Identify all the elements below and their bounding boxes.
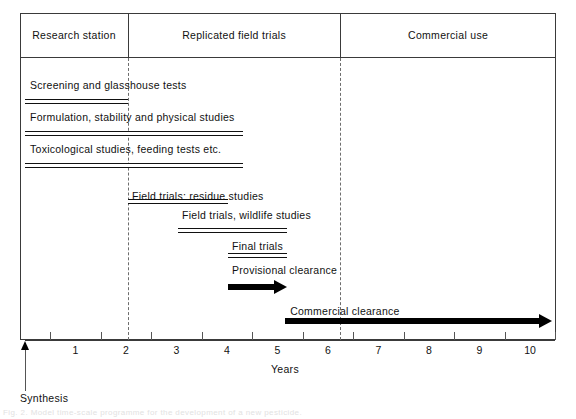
synthesis-stem (25, 343, 26, 391)
x-axis-tick-label-4: 4 (217, 344, 237, 356)
x-axis-tick-label-1: 1 (66, 344, 86, 356)
synthesis-label: Synthesis (20, 392, 68, 404)
header-separator-rule (20, 57, 556, 58)
x-axis-tick-label-3: 3 (167, 344, 187, 356)
chart-frame (20, 13, 556, 340)
x-axis-tick-label-9: 9 (470, 344, 490, 356)
figure-canvas: Research stationReplicated field trialsC… (0, 0, 576, 419)
x-axis-tick-label-2: 2 (116, 344, 136, 356)
x-axis-tick-label-7: 7 (369, 344, 389, 356)
x-axis-tick-label-6: 6 (318, 344, 338, 356)
figure-caption: Fig. 2. Model time-scale programme for t… (3, 408, 302, 417)
x-axis-line (25, 340, 555, 341)
x-axis-tick-label-8: 8 (419, 344, 439, 356)
x-axis-tick-label-5: 5 (268, 344, 288, 356)
synthesis-arrow-icon (21, 341, 29, 350)
x-axis-title: Years (271, 363, 299, 375)
x-axis-tick-label-10: 10 (520, 344, 540, 356)
